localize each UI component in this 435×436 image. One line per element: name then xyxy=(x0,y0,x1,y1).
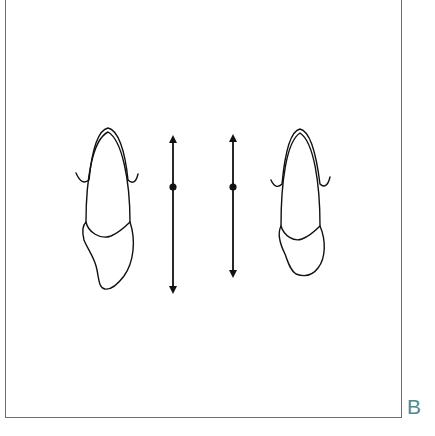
left-tooth-outline xyxy=(76,128,138,289)
right-double-arrow xyxy=(229,138,236,274)
right-arrow-midpoint-dot xyxy=(229,183,236,190)
panel-label: B xyxy=(407,396,421,417)
diagram-canvas xyxy=(0,0,435,436)
left-double-arrow xyxy=(169,139,176,290)
left-arrow-midpoint-dot xyxy=(169,183,176,190)
right-tooth-outline xyxy=(271,129,330,276)
